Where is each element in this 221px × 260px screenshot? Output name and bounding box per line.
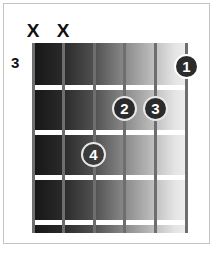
- muted-string-6-icon: X: [24, 20, 42, 42]
- finger-dot-3: 3: [143, 96, 168, 121]
- muted-string-5-icon: X: [54, 20, 72, 42]
- start-fret-number: 3: [11, 54, 19, 71]
- string-4: [93, 43, 96, 233]
- fret-line-4: [33, 220, 186, 225]
- string-5: [62, 43, 65, 233]
- finger-dot-1: 1: [174, 54, 199, 79]
- string-2: [154, 43, 157, 233]
- finger-dot-2: 2: [112, 96, 137, 121]
- fretboard: [32, 43, 187, 233]
- string-6: [32, 43, 35, 233]
- finger-dot-4: 4: [81, 142, 106, 167]
- fret-line-3: [33, 175, 186, 180]
- string-3: [123, 43, 126, 233]
- fret-line-2: [33, 130, 186, 135]
- fret-line-1: [33, 85, 186, 90]
